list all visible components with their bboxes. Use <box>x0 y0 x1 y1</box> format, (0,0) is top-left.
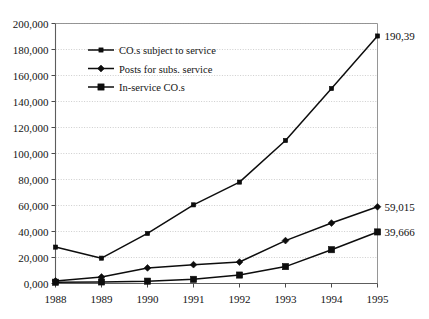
y-axis-tick-label: 200,000 <box>13 18 49 30</box>
legend-marker-square <box>98 84 104 90</box>
series-data-point <box>282 237 289 244</box>
chart-canvas: 0,00020,00040,00060,00080,000100,000120,… <box>0 0 429 319</box>
series-line <box>56 207 378 281</box>
legend-item-label: CO.s subject to service <box>119 45 216 56</box>
legend-marker-diamond <box>98 65 105 72</box>
series-data-point <box>144 265 151 272</box>
series-data-point <box>283 138 287 142</box>
series-data-point <box>144 278 150 284</box>
series-data-point <box>52 279 58 285</box>
series-data-point <box>374 203 381 210</box>
y-axis-tick-label: 140,000 <box>13 96 49 108</box>
series-data-point <box>375 34 379 38</box>
y-axis-tick-label: 80,000 <box>18 174 49 186</box>
y-axis-tick-label: 0,000 <box>24 278 49 290</box>
series-data-point <box>328 220 335 227</box>
y-axis-tick-label: 100,000 <box>13 148 49 160</box>
legend-item-label: In-service CO.s <box>119 82 185 93</box>
x-axis-tick-label: 1993 <box>275 293 298 305</box>
y-axis-tick-label: 180,000 <box>13 44 49 56</box>
series-data-point <box>237 180 241 184</box>
series-data-point <box>191 203 195 207</box>
series-data-point <box>374 229 380 235</box>
series-data-point <box>236 272 242 278</box>
x-axis-tick-label: 1989 <box>91 293 114 305</box>
legend-item-label: Posts for subs. service <box>119 64 213 75</box>
series-data-point <box>99 256 103 260</box>
series-data-point <box>98 279 104 285</box>
series-data-point <box>329 86 333 90</box>
x-axis-tick-label: 1988 <box>45 293 68 305</box>
y-axis-tick-label: 160,000 <box>13 70 49 82</box>
x-axis-tick-label: 1994 <box>321 293 344 305</box>
x-axis-tick-label: 1992 <box>229 293 251 305</box>
series-data-point <box>328 247 334 253</box>
series-end-label: 59,015 <box>385 201 416 213</box>
series-data-point <box>190 276 196 282</box>
y-axis-tick-label: 20,000 <box>18 252 49 264</box>
x-axis-tick-label: 1990 <box>137 293 160 305</box>
x-axis-tick-label: 1995 <box>367 293 390 305</box>
series-end-label: 190,39 <box>385 30 416 42</box>
y-axis-tick-label: 60,000 <box>18 200 49 212</box>
series-data-point <box>145 231 149 235</box>
series-end-label: 39,666 <box>385 226 416 238</box>
series-data-point <box>190 261 197 268</box>
x-axis-tick-label: 1991 <box>183 293 205 305</box>
series-data-point <box>236 259 243 266</box>
series-data-point <box>53 245 57 249</box>
legend-marker-line <box>99 48 103 52</box>
y-axis-tick-label: 40,000 <box>18 226 49 238</box>
y-axis-tick-label: 120,000 <box>13 122 49 134</box>
line-chart: 0,00020,00040,00060,00080,000100,000120,… <box>0 0 429 319</box>
series-data-point <box>282 264 288 270</box>
